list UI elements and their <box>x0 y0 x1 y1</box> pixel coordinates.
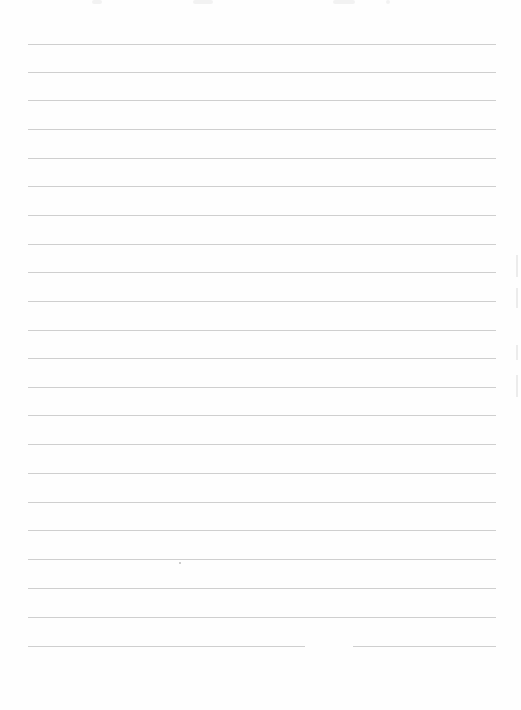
edge-bleed-mark <box>516 288 518 308</box>
ruled-line <box>28 588 496 589</box>
ruled-line <box>28 272 496 273</box>
bleed-through-mark <box>333 0 355 4</box>
ruled-line <box>28 646 305 647</box>
paper-speck <box>179 562 181 564</box>
ruled-line <box>28 186 496 187</box>
ruled-line <box>28 129 496 130</box>
ruled-line <box>353 646 496 647</box>
ruled-line <box>28 415 496 416</box>
ruled-line <box>28 301 496 302</box>
edge-bleed-mark <box>516 375 518 397</box>
ruled-line <box>28 244 496 245</box>
edge-bleed-mark <box>516 255 518 277</box>
ruled-line <box>28 100 496 101</box>
bleed-through-mark <box>386 0 390 4</box>
ruled-line <box>28 158 496 159</box>
ruled-line <box>28 44 496 45</box>
lined-paper-page <box>0 0 521 710</box>
ruled-line <box>28 358 496 359</box>
bleed-through-mark <box>193 0 213 4</box>
ruled-line <box>28 330 496 331</box>
ruled-line <box>28 444 496 445</box>
ruled-line <box>28 473 496 474</box>
ruled-line <box>28 530 496 531</box>
ruled-line <box>28 559 496 560</box>
ruled-line <box>28 617 496 618</box>
ruled-line <box>28 387 496 388</box>
edge-bleed-mark <box>516 345 518 360</box>
ruled-line <box>28 215 496 216</box>
ruled-line <box>28 502 496 503</box>
bleed-through-mark <box>92 0 102 4</box>
ruled-line <box>28 72 496 73</box>
